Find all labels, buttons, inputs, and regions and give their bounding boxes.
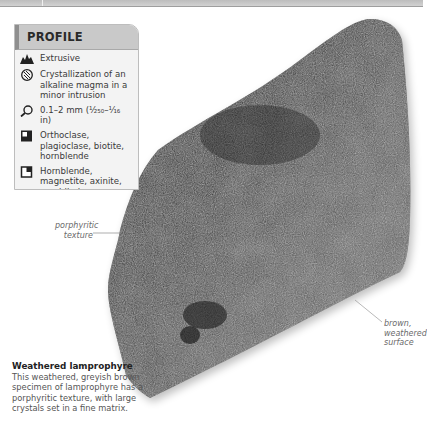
magnifier-grain-size-icon xyxy=(20,105,34,117)
weathered-surface-label: brown, weathered surface xyxy=(384,319,424,348)
caption-body: This weathered, greyish brown specimen o… xyxy=(12,372,162,413)
profile-title: PROFILE xyxy=(15,25,138,50)
porphyritic-texture-label: porphyritic texture xyxy=(55,221,93,240)
profile-item-grain-size: 0.1–2 mm (¹⁄₂₅₀–¹⁄₁₆ in) xyxy=(20,105,134,126)
extrusive-mountain-icon xyxy=(20,53,34,65)
crystal-formation-icon xyxy=(20,69,34,81)
profile-item-essential-minerals: Orthoclase, plagioclase, biotite, hornbl… xyxy=(20,130,134,162)
profile-item-formation: Crystallization of an alkaline magma in … xyxy=(20,69,134,101)
weathered-leader-line xyxy=(355,300,382,322)
profile-item-text: Extrusive xyxy=(40,53,80,64)
profile-item-accessory-minerals: Hornblende, magnetite, axinite, amphibol… xyxy=(20,166,134,190)
profile-item-text: Hornblende, magnetite, axinite, amphibol… xyxy=(40,166,134,190)
profile-list: Extrusive Crystallization of an alkaline… xyxy=(15,50,138,190)
essential-minerals-icon xyxy=(20,130,34,142)
profile-panel: PROFILE Extrusive Crystallization of an … xyxy=(14,24,139,190)
profile-item-text: 0.1–2 mm (¹⁄₂₅₀–¹⁄₁₆ in) xyxy=(40,105,134,126)
profile-item-text: Orthoclase, plagioclase, biotite, hornbl… xyxy=(40,130,134,162)
specimen-caption: Weathered lamprophyre This weathered, gr… xyxy=(12,361,162,413)
caption-title: Weathered lamprophyre xyxy=(12,361,162,372)
profile-item-origin: Extrusive xyxy=(20,53,134,65)
accessory-minerals-icon xyxy=(20,166,34,178)
profile-item-text: Crystallization of an alkaline magma in … xyxy=(40,69,134,101)
